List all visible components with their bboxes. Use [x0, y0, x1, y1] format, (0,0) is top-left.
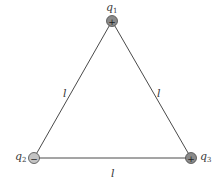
charge-q1: + q1 — [106, 1, 118, 27]
charge-label-q3: q3 — [200, 150, 212, 164]
charge-sign: + — [187, 154, 195, 164]
charge-sign: + — [108, 17, 116, 27]
charge-label-q2: q2 — [15, 150, 27, 164]
charge-label-q1: q1 — [106, 1, 118, 15]
charge-triangle-diagram: l l l + q1 − q2 + q3 — [0, 0, 223, 182]
side-label-bottom: l — [111, 167, 115, 180]
side-label-right: l — [157, 87, 161, 100]
side-label-left: l — [63, 87, 67, 100]
charge-q2: − q2 — [15, 150, 40, 164]
charge-q3: + q3 — [186, 150, 212, 164]
side-q1-q3 — [112, 21, 191, 158]
charge-sign: − — [30, 154, 38, 164]
side-q1-q2 — [34, 21, 112, 158]
